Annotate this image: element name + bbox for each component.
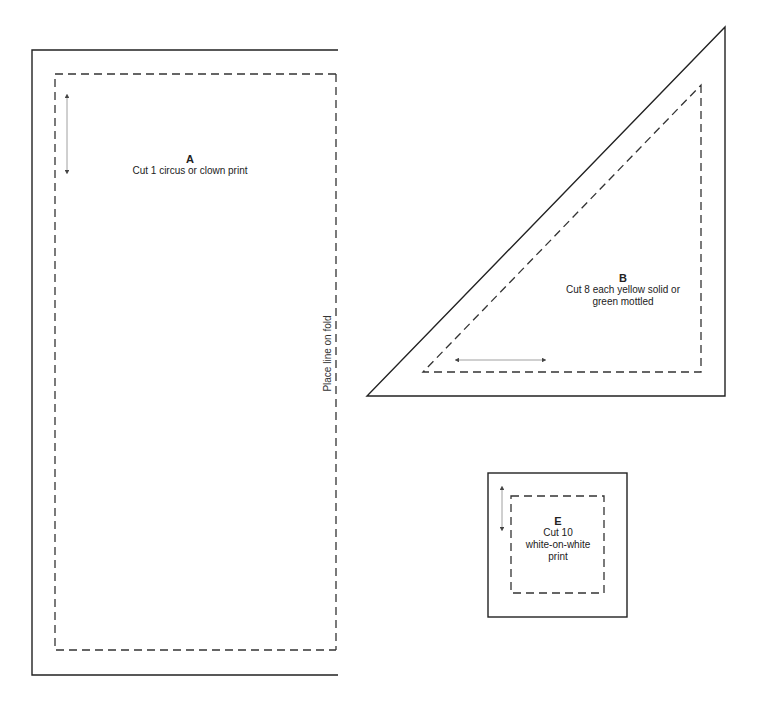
piece-b-cut-line xyxy=(367,27,725,396)
piece-a-instruction: Cut 1 circus or clown print xyxy=(132,165,247,176)
piece-a-letter: A xyxy=(110,153,270,165)
piece-a-fold-label: Place line on fold xyxy=(322,309,333,399)
piece-a xyxy=(32,50,338,675)
piece-e-instruction-line2: white-on-white xyxy=(512,539,604,551)
piece-e-letter: E xyxy=(512,515,604,527)
piece-b-seam-line xyxy=(423,85,701,372)
piece-b xyxy=(367,27,725,396)
pattern-canvas xyxy=(0,0,763,706)
piece-b-label: B Cut 8 each yellow solid or green mottl… xyxy=(548,272,698,308)
piece-b-instruction-line1: Cut 8 each yellow solid or xyxy=(548,284,698,296)
piece-a-label: A Cut 1 circus or clown print xyxy=(110,153,270,177)
piece-e-label: E Cut 10 white-on-white print xyxy=(512,515,604,563)
piece-e-instruction-line1: Cut 10 xyxy=(512,527,604,539)
piece-e-instruction-line3: print xyxy=(512,551,604,563)
piece-a-cut-line xyxy=(32,50,338,675)
piece-b-letter: B xyxy=(548,272,698,284)
piece-b-instruction-line2: green mottled xyxy=(548,296,698,308)
